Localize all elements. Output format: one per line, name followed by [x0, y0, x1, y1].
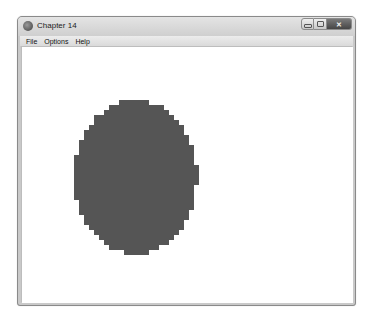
window-title: Chapter 14	[37, 21, 77, 30]
maximize-icon	[317, 21, 324, 27]
menu-file[interactable]: File	[26, 38, 37, 45]
menu-options[interactable]: Options	[44, 38, 68, 45]
client-area[interactable]	[21, 46, 352, 302]
menu-help[interactable]: Help	[75, 38, 89, 45]
maximize-button[interactable]	[314, 18, 327, 30]
minimize-icon	[304, 24, 312, 28]
title-bar[interactable]: Chapter 14 ✕	[18, 17, 355, 36]
app-globe-icon[interactable]	[23, 21, 33, 31]
caption-buttons: ✕	[301, 18, 352, 31]
menu-bar: File Options Help	[20, 36, 353, 46]
close-icon: ✕	[336, 21, 342, 28]
close-button[interactable]: ✕	[327, 18, 352, 30]
drawing-canvas[interactable]	[22, 47, 353, 303]
app-window: Chapter 14 ✕ File Options Help	[17, 16, 356, 306]
minimize-button[interactable]	[301, 18, 314, 30]
